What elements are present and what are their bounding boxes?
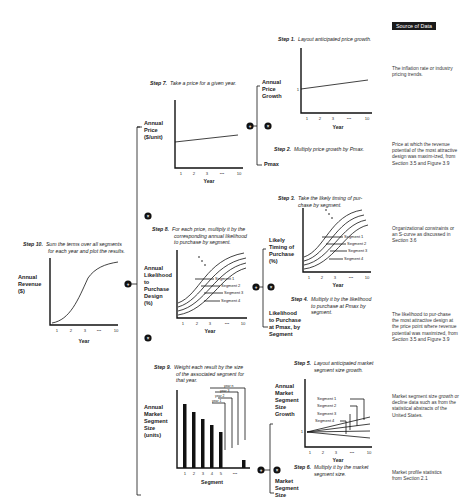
- step-1-caption: Step 1.Layout anticipated price growth.: [278, 36, 371, 43]
- step-4-caption: Step 4.Multiply it by the likelihoodto p…: [291, 296, 371, 316]
- svg-text:•••: •••: [233, 471, 238, 476]
- source-of-data-header: Source of Data: [392, 22, 436, 30]
- svg-text:×: ×: [276, 468, 279, 473]
- svg-text:3: 3: [335, 450, 338, 455]
- svg-text:5: 5: [220, 471, 223, 476]
- svg-text:Segment 3: Segment 3: [224, 290, 244, 295]
- step-7-caption: Step 7.Take a price for a given year.: [150, 80, 237, 87]
- svg-text:+: +: [249, 124, 252, 129]
- svg-text:year 3: year 3: [220, 389, 230, 393]
- svg-text:10: 10: [365, 116, 370, 121]
- svg-text:Segment 1: Segment 1: [317, 396, 337, 401]
- svg-text:1: 1: [306, 116, 309, 121]
- svg-text:year 1: year 1: [212, 399, 222, 403]
- svg-text:Year: Year: [205, 328, 216, 334]
- svg-text:1: 1: [56, 328, 59, 333]
- svg-text:1: 1: [180, 171, 183, 176]
- svg-text:+: +: [260, 468, 263, 473]
- source-timing: Organizational constraints or an S-curve…: [392, 226, 458, 245]
- svg-text:2: 2: [193, 471, 196, 476]
- likelihood-design-label: AnnualLikelihoodtoPurchaseDesign(%): [144, 265, 172, 307]
- svg-text:1: 1: [301, 429, 304, 434]
- step-3-caption: Step 3.Take the likely timing of pur-cha…: [278, 195, 362, 208]
- svg-text:Year: Year: [333, 282, 344, 288]
- svg-text:2: 2: [70, 328, 73, 333]
- svg-text:Segment 2: Segment 2: [317, 403, 337, 408]
- svg-text:Year: Year: [79, 338, 90, 344]
- annual-price-label: AnnualPrice($/unit): [144, 120, 163, 141]
- step-10-caption: Step 10.Sum the terms over all segmentsf…: [23, 241, 125, 254]
- svg-text:3: 3: [206, 171, 209, 176]
- svg-text:Segment: Segment: [201, 479, 223, 485]
- svg-text:Year: Year: [333, 124, 344, 130]
- step-9-caption: Step 9.Weight each result by the sizeof …: [154, 364, 244, 384]
- svg-text:1: 1: [308, 275, 311, 280]
- svg-text:Year: Year: [204, 178, 215, 184]
- svg-text:Segment 4: Segment 4: [221, 298, 241, 303]
- svg-text:10: 10: [241, 321, 246, 326]
- source-pmax: Price at which the revenue potential of …: [392, 142, 460, 167]
- likely-timing-label: LikelyTiming ofPurchase(%): [269, 237, 294, 265]
- svg-text:10: 10: [237, 171, 242, 176]
- svg-text:3: 3: [209, 321, 212, 326]
- segment-bars: [183, 404, 246, 468]
- source-likelihood: The likelihood to pur-chase the most att…: [392, 312, 458, 343]
- step-2-caption: Step 2.Multiply price growth by Pmax.: [274, 146, 364, 153]
- segment-size-label: AnnualMarketSegmentSize(units): [144, 404, 168, 439]
- svg-text:3: 3: [332, 116, 335, 121]
- svg-text:Year: Year: [333, 457, 344, 463]
- svg-text:Segment 4: Segment 4: [315, 418, 335, 423]
- svg-text:1: 1: [309, 450, 312, 455]
- annual-revenue-label: AnnualRevenue($): [18, 274, 41, 295]
- source-segment-size: Market profile statistics from Section 2…: [392, 470, 452, 482]
- svg-text:×: ×: [267, 124, 270, 129]
- svg-text:2: 2: [196, 321, 199, 326]
- svg-text:10: 10: [114, 328, 119, 333]
- svg-text:+: +: [127, 282, 130, 287]
- svg-text:+: +: [255, 285, 258, 290]
- svg-text:2: 2: [322, 450, 325, 455]
- source-price-growth: The inflation rate or industry pricing t…: [392, 66, 458, 78]
- likelihood-pmax-label: Likelihoodto Purchaseat Pmax, bySegment: [269, 310, 301, 338]
- svg-text:4: 4: [211, 471, 214, 476]
- svg-text:Segment 1: Segment 1: [344, 234, 364, 239]
- svg-text:Segment 3: Segment 3: [348, 248, 368, 253]
- svg-text:10: 10: [365, 275, 370, 280]
- step-5-caption: Step 5.Layout anticipated marketsegment …: [294, 360, 373, 373]
- svg-text:•••: •••: [220, 171, 225, 176]
- svg-text:Segment 3: Segment 3: [317, 411, 337, 416]
- svg-text:3: 3: [334, 275, 337, 280]
- annual-price-growth-label: AnnualPriceGrowth: [262, 79, 282, 100]
- step-8-caption: Step 8.For each price, multiply it by th…: [152, 226, 247, 246]
- svg-text:3: 3: [202, 471, 205, 476]
- svg-text:1: 1: [182, 321, 185, 326]
- svg-text:•••: •••: [347, 116, 352, 121]
- segment-size-growth-label: AnnualMarketSegmentSizeGrowth: [275, 383, 299, 418]
- svg-text:2: 2: [321, 275, 324, 280]
- svg-text:•••: •••: [350, 450, 355, 455]
- svg-text:2: 2: [193, 171, 196, 176]
- svg-text:Segment 2: Segment 2: [347, 241, 367, 246]
- svg-text:Segment 1: Segment 1: [215, 276, 235, 281]
- svg-text:Segment 4: Segment 4: [344, 256, 364, 261]
- pmax-label: Pmax: [264, 161, 279, 168]
- step-6-caption: Step 6.Multiply it by the marketsegment …: [294, 464, 369, 477]
- market-segment-size-label: MarketSegmentSize: [275, 478, 299, 499]
- svg-text:1: 1: [297, 87, 300, 92]
- svg-text:•••: •••: [97, 328, 102, 333]
- svg-text:Segment 2: Segment 2: [221, 283, 241, 288]
- svg-text:2: 2: [319, 116, 322, 121]
- svg-text:year 2: year 2: [215, 394, 225, 398]
- svg-text:×: ×: [147, 214, 150, 219]
- svg-text:•••: •••: [349, 275, 354, 280]
- svg-text:year n: year n: [224, 384, 234, 388]
- source-segment-growth: Market segment size growth or decline da…: [392, 394, 460, 419]
- svg-text:×: ×: [147, 336, 150, 341]
- svg-text:3: 3: [84, 328, 87, 333]
- svg-text:1: 1: [184, 471, 187, 476]
- svg-text:•••: •••: [225, 321, 230, 326]
- svg-text:×: ×: [270, 285, 273, 290]
- svg-text:10: 10: [367, 450, 372, 455]
